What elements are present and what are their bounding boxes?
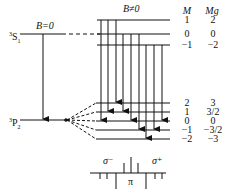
mg-value: 2: [200, 15, 226, 25]
splitting-dash: [67, 112, 96, 120]
mg-value: 0: [200, 29, 226, 39]
sigma-minus-label: σ⁻: [103, 156, 113, 166]
m-value: −1: [177, 40, 197, 50]
mg-value: −2: [200, 40, 226, 50]
lower-term-label: 3P2: [9, 115, 21, 132]
zero-field-label: B=0: [36, 21, 54, 31]
lower-sublevels: [96, 103, 170, 139]
splitting-dash: [67, 120, 96, 121]
splitting-dash: [67, 120, 96, 139]
m-value: 1: [177, 15, 197, 25]
transition-arrows: [101, 20, 162, 138]
splitting-dash: [67, 103, 96, 120]
m-value: 0: [177, 29, 197, 39]
mg-value: −3: [200, 134, 226, 144]
m-value: −2: [177, 134, 197, 144]
sigma-plus-label: σ⁺: [152, 156, 162, 166]
zeeman-diagram: 3S1 3P2 B=0 B≠0 M Mg 1200−1−2 2313/200−1…: [0, 0, 227, 196]
splitting-dash: [67, 120, 96, 130]
splitting-fan: [67, 103, 96, 139]
nonzero-field-label: B≠0: [123, 4, 140, 14]
pi-label: π: [128, 177, 133, 187]
upper-term-label: 3S1: [9, 29, 21, 46]
